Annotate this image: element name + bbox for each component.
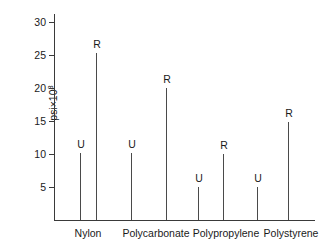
- y-tick-mark: [49, 88, 55, 89]
- y-tick-mark: [49, 121, 55, 122]
- stem-line: [80, 153, 81, 220]
- stem-label: U: [125, 139, 139, 150]
- y-axis-label: psi×103: [46, 68, 60, 138]
- stem-label: U: [74, 139, 88, 150]
- stem-line: [257, 187, 258, 220]
- y-tick-label: 5: [8, 182, 46, 192]
- stem-line: [223, 154, 224, 220]
- stem-line: [198, 187, 199, 220]
- x-axis-category-label: Nylon: [64, 226, 112, 240]
- y-tick-label: 25: [8, 50, 46, 60]
- y-tick-label: 20: [8, 83, 46, 93]
- stem-line: [166, 88, 167, 220]
- stem-label: U: [251, 173, 265, 184]
- x-axis-line: [54, 220, 315, 221]
- stem-line: [288, 122, 289, 220]
- y-tick-mark: [49, 154, 55, 155]
- stem-label: U: [192, 173, 206, 184]
- y-tick-mark: [49, 55, 55, 56]
- stem-line: [96, 53, 97, 220]
- y-tick-label: 15: [8, 116, 46, 126]
- x-axis-category-label: Polystyrene: [255, 226, 323, 240]
- y-tick-mark: [49, 22, 55, 23]
- stem-chart: psi×103 30252015105 URURURUR NylonPolyca…: [0, 0, 323, 248]
- stem-label: R: [282, 108, 296, 119]
- y-tick-mark: [49, 187, 55, 188]
- stem-line: [131, 153, 132, 220]
- y-axis-label-text: psi×10: [47, 89, 59, 120]
- stem-label: R: [217, 140, 231, 151]
- y-tick-label: 10: [8, 149, 46, 159]
- stem-label: R: [90, 39, 104, 50]
- stem-label: R: [160, 74, 174, 85]
- y-tick-label: 30: [8, 17, 46, 27]
- y-axis-line: [54, 14, 55, 221]
